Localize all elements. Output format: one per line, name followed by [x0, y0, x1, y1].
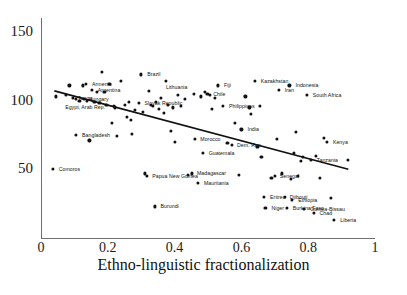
data-point-label: Burundi — [161, 203, 179, 209]
data-point-label: Niger — [271, 205, 284, 211]
data-point-label: Fiji — [224, 82, 231, 88]
scatter-plot-figure: 15010050 00.20.40.60.81 ComorosTongaBang… — [0, 0, 407, 295]
data-point-label: Chad — [320, 210, 333, 216]
y-tick-label: 50 — [3, 160, 33, 177]
x-tick-label: 1 — [355, 240, 395, 256]
data-point-label: Guatemala — [209, 150, 235, 156]
data-point-label: Mauritania — [204, 180, 229, 186]
data-point-label: Philippines — [229, 103, 255, 109]
data-point-label: India — [247, 126, 259, 132]
data-point-label: Liberia — [340, 217, 356, 223]
data-point-label: Tanzania — [317, 157, 338, 163]
data-point-label: Morocco — [200, 136, 220, 142]
data-point-label: Kenya — [333, 139, 348, 145]
y-tick-label: 100 — [3, 92, 33, 109]
x-tick-label: 0.8 — [288, 240, 328, 256]
x-tick-label: 0.6 — [221, 240, 261, 256]
data-point-label: Iran — [285, 87, 294, 93]
data-point-label: South Africa — [313, 92, 342, 98]
x-tick-label: 0.4 — [155, 240, 195, 256]
plot-area: ComorosTongaBangladeshHungaryArmeniaArge… — [41, 18, 375, 238]
data-point-label: Ethiopia — [298, 197, 317, 203]
data-point-label: Egypt, Arab Rep. — [65, 104, 105, 110]
x-tick-label: 0.2 — [88, 240, 128, 256]
data-point-label: Brazil — [147, 71, 160, 77]
y-tick-label: 150 — [3, 23, 33, 40]
x-axis-line — [41, 238, 375, 239]
x-tick-label: 0 — [21, 240, 61, 256]
data-point-label: Kazakhstan — [261, 78, 289, 84]
data-point-label: Argentina — [98, 87, 121, 93]
data-point-label: Indonesia — [295, 82, 318, 88]
x-axis-title: Ethno-linguistic fractionalization — [0, 256, 407, 274]
data-point-label: Madagascar — [197, 170, 226, 176]
data-point-label: Bangladesh — [82, 132, 110, 138]
data-point-label: Lithuania — [166, 84, 188, 90]
trendline — [41, 18, 375, 238]
data-point-label: Comoros — [59, 166, 80, 172]
